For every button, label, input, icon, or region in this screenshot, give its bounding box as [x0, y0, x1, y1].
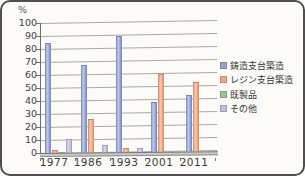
y-axis-tick: [36, 49, 40, 50]
bar-group-2011: [186, 82, 213, 154]
legend-label-premade: 既製品: [230, 88, 257, 101]
x-axis-tick: [145, 158, 146, 161]
legend-swatch-resin: [220, 76, 227, 83]
x-axis-tick: [40, 158, 41, 161]
legend-item-other: その他: [220, 102, 293, 117]
bar-group-1986: [81, 65, 108, 153]
bar-resin-2011: [193, 82, 199, 154]
y-axis-tick: [36, 36, 40, 37]
legend-item-premade: 既製品: [220, 87, 293, 102]
bar-cast-1986: [81, 65, 87, 153]
y-tick-label: 10: [8, 134, 37, 146]
bar-group-1993: [116, 36, 143, 153]
bar-resin-1986: [88, 119, 94, 153]
y-tick-label: 30: [8, 108, 37, 120]
y-tick-label: 100: [8, 17, 37, 29]
x-axis-tick: [215, 158, 216, 161]
y-tick-label: 50: [8, 82, 37, 94]
x-axis-tick: [180, 158, 181, 161]
y-axis-tick: [36, 127, 40, 128]
bar-cast-2001: [151, 102, 157, 153]
y-axis-tick: [36, 88, 40, 89]
y-tick-label: 0: [8, 147, 37, 159]
y-axis-labels: 1009080706050403020100: [8, 2, 37, 176]
y-axis-tick: [36, 114, 40, 115]
y-tick-label: 60: [8, 69, 37, 81]
legend: 鋳造支台築造レジン支台築造既製品その他: [220, 58, 293, 116]
bar-cast-2011: [186, 95, 192, 154]
legend-swatch-premade: [220, 91, 227, 98]
bar-cast-1977: [45, 43, 51, 154]
legend-label-other: その他: [230, 102, 257, 115]
legend-item-resin: レジン支台築造: [220, 73, 293, 88]
figure-card: % 1009080706050403020100 鋳造支台築造レジン支台築造既製…: [0, 0, 305, 176]
y-tick-label: 20: [8, 121, 37, 133]
y-axis-tick: [36, 140, 40, 141]
y-axis-tick: [36, 62, 40, 63]
y-axis-tick: [36, 23, 40, 24]
bar-group-2001: [151, 74, 178, 153]
y-tick-label: 80: [8, 43, 37, 55]
legend-label-resin: レジン支台築造: [230, 73, 293, 86]
x-axis-tick: [75, 158, 76, 161]
y-axis-tick: [36, 101, 40, 102]
legend-item-cast: 鋳造支台築造: [220, 58, 293, 73]
y-tick-label: 70: [8, 56, 37, 68]
legend-swatch-cast: [220, 62, 227, 69]
y-tick-label: 40: [8, 95, 37, 107]
legend-label-cast: 鋳造支台築造: [230, 59, 284, 72]
legend-swatch-other: [220, 105, 227, 112]
y-tick-label: 90: [8, 30, 37, 42]
bar-groups: [40, 23, 217, 154]
x-tick-label: 1986: [68, 156, 108, 168]
bar-resin-2001: [158, 74, 164, 153]
bar-group-1977: [45, 43, 72, 154]
bar-cast-1993: [116, 36, 122, 153]
y-axis-tick: [36, 153, 40, 154]
bar-other-1977: [66, 139, 72, 153]
x-axis-tick: [110, 158, 111, 161]
y-axis-tick: [36, 75, 40, 76]
